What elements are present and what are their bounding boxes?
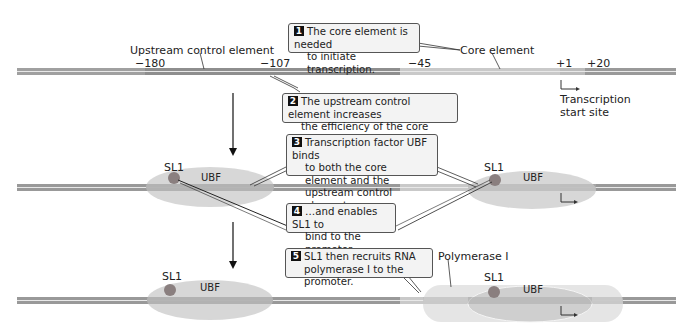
sl1-label-right-row2: SL1 [484, 161, 504, 174]
transcription-start-site-label: Transcription start site [560, 93, 631, 119]
sl1-protein-right [489, 174, 501, 186]
step-number-badge: 4 [292, 206, 302, 216]
step-number-badge: 3 [292, 137, 302, 147]
position-minus-107: −107 [260, 57, 290, 70]
tss-label-line1: Transcription [560, 93, 631, 106]
sl1-label-right-row3: SL1 [484, 271, 504, 284]
tss-arrow-icon [561, 80, 580, 91]
ubf-label-left-row2: UBF [201, 172, 221, 183]
callout-step-2: 2The upstream control element increases … [282, 93, 458, 123]
sl1-protein-left-row3 [164, 284, 176, 296]
callout-text: polymerase I to the promoter. [291, 264, 427, 289]
down-arrow-icon [229, 222, 237, 269]
tss-label-line2: start site [560, 106, 631, 119]
polymerase-i-label: Polymerase I [438, 250, 509, 263]
step-number-badge: 5 [291, 251, 301, 261]
sl1-protein-right-row3 [488, 286, 500, 298]
callout-text: Transcription factor UBF binds [292, 137, 427, 161]
ubf-label-right-row2: UBF [523, 172, 543, 183]
ubf-label-left-row3: UBF [200, 282, 220, 293]
callout-text: SL1 then recruits RNA [304, 251, 416, 262]
callout-text: to both the core element and the [292, 162, 432, 187]
step-number-badge: 1 [294, 26, 304, 36]
callout-step-5: 5SL1 then recruits RNA polymerase I to t… [285, 248, 433, 278]
position-plus-1: +1 [556, 57, 572, 70]
sl1-label-left-row3: SL1 [162, 270, 182, 283]
callout-text: The core element is needed [294, 26, 408, 50]
step-number-badge: 2 [288, 96, 298, 106]
sl1-label-left-row2: SL1 [164, 161, 184, 174]
callout-text: The upstream control element increases [288, 96, 410, 120]
position-plus-20: +20 [587, 57, 610, 70]
callout-step-1: 1The core element is needed to initiate … [288, 23, 420, 53]
callout-text: to initiate transcription. [294, 51, 414, 76]
callout-step-4: 4…and enables SL1 to bind to the promote… [286, 203, 396, 233]
upstream-control-element-label: Upstream control element [130, 44, 274, 57]
ubf-label-right-row3: UBF [523, 284, 543, 295]
core-element-label: Core element [460, 44, 534, 57]
position-minus-180: −180 [135, 57, 165, 70]
callout-step-3: 3Transcription factor UBF binds to both … [286, 134, 438, 176]
down-arrow-icon [229, 93, 237, 156]
callout-text: …and enables SL1 to [292, 206, 377, 230]
